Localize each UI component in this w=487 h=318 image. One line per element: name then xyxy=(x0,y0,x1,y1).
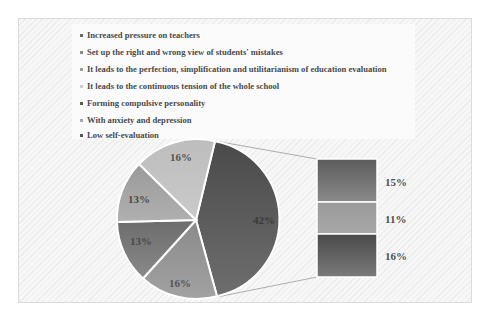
pie-label-16-top: 16% xyxy=(170,151,192,163)
pie-label-13-lower: 13% xyxy=(130,235,152,247)
bar-label-11: 11% xyxy=(385,213,406,225)
pie-label-13-upper: 13% xyxy=(128,193,150,205)
pie-label-16-bottom: 16% xyxy=(169,277,191,289)
pie-label-42: 42% xyxy=(253,214,275,226)
pie-chart: 42% 16% 13% 13% 16% xyxy=(0,0,487,318)
secondary-bar xyxy=(317,159,377,277)
bar-segment-16 xyxy=(317,234,377,277)
bar-segment-15 xyxy=(317,159,377,202)
bar-segment-11 xyxy=(317,202,377,234)
bar-label-15: 15% xyxy=(385,176,407,188)
bar-label-16: 16% xyxy=(385,250,407,262)
